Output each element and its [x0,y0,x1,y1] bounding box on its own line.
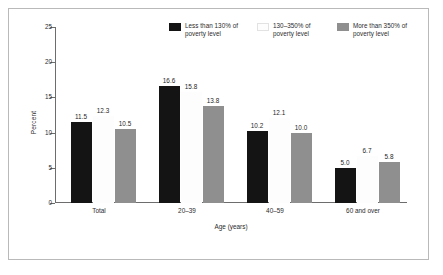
bar: 11.5 [71,122,92,203]
bar-value-label: 13.8 [207,97,219,104]
bar-group: 5.06.75.8 [335,27,400,203]
y-tick-label: 15 [45,93,52,100]
bar-group: 11.512.310.5 [71,27,136,203]
bar-value-label: 11.5 [75,113,87,120]
bar-value-label: 5.8 [385,153,394,160]
bar-value-label: 12.3 [97,107,109,114]
bar-value-label: 10.2 [251,122,263,129]
bar: 6.7 [357,156,378,203]
bar-value-label: 5.0 [341,159,350,166]
bar-value-label: 15.8 [185,83,197,90]
x-category-label: 60 and over [319,207,407,214]
bar: 12.1 [269,118,290,203]
bar-value-label: 10.5 [119,120,131,127]
y-axis-line [55,27,56,203]
x-axis-title: Age (years) [55,223,407,230]
bar: 10.2 [247,131,268,203]
bar-group: 10.212.110.0 [247,27,312,203]
y-tick-label: 10 [45,129,52,136]
bar-value-label: 6.7 [363,147,372,154]
bar: 5.8 [379,162,400,203]
y-tick-label: 0 [48,199,52,206]
y-tick-label: 25 [45,23,52,30]
chart-figure: Less than 130% of poverty level 130–350%… [8,8,429,260]
bar: 10.5 [115,129,136,203]
plot-area: 0510152025 11.512.310.516.615.813.810.21… [55,27,407,203]
bar-value-label: 16.6 [163,77,175,84]
bar: 10.0 [291,133,312,203]
y-axis-title: Percent [30,93,37,153]
x-category-label: 40–59 [231,207,319,214]
y-tick-label: 5 [48,164,52,171]
bar: 5.0 [335,168,356,203]
bar: 12.3 [93,116,114,203]
bar-group: 16.615.813.8 [159,27,224,203]
bar-value-label: 10.0 [295,124,307,131]
bar: 15.8 [181,92,202,203]
x-category-label: Total [55,207,143,214]
bar: 16.6 [159,86,180,203]
bar: 13.8 [203,106,224,203]
y-tick-label: 20 [45,58,52,65]
x-category-label: 20–39 [143,207,231,214]
bar-value-label: 12.1 [273,109,285,116]
